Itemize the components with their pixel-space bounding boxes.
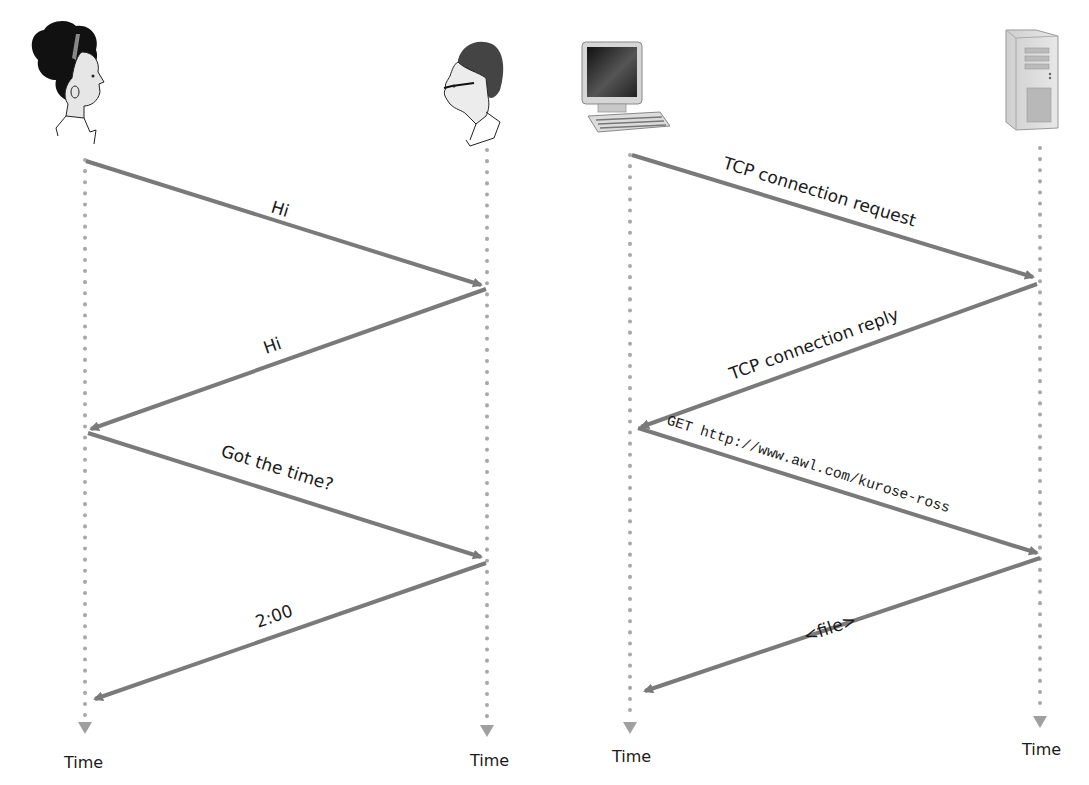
message-label: Got the time?	[219, 441, 336, 495]
message-tcp-reply: TCP connection reply	[641, 284, 1037, 427]
message-http-get: GET http://www.awl.com/kurose-ross	[638, 413, 1037, 553]
message-hi-b-to-a: Hi	[91, 289, 486, 429]
message-file: <file>	[645, 558, 1040, 691]
time-arrow-icon	[78, 722, 92, 734]
person-man-icon	[444, 42, 503, 146]
message-tcp-request: TCP connection request	[632, 152, 1033, 277]
server-tower-icon	[1006, 30, 1058, 130]
person-woman-icon	[32, 21, 104, 144]
time-label: Time	[63, 753, 103, 772]
message-label: Hi	[261, 333, 284, 358]
time-label: Time	[469, 751, 509, 770]
message-hi-a-to-b: Hi	[86, 161, 481, 285]
time-arrow-icon	[1033, 716, 1047, 728]
message-label: GET http://www.awl.com/kurose-ross	[665, 413, 952, 517]
lifeline-server	[1033, 148, 1047, 728]
message-label: 2:00	[253, 600, 296, 631]
message-2-00: 2:00	[95, 563, 486, 699]
message-label: <file>	[801, 609, 859, 645]
lifeline-person-a	[78, 160, 92, 734]
time-arrow-icon	[623, 722, 637, 734]
time-arrow-icon	[480, 725, 494, 737]
message-got-the-time: Got the time?	[88, 433, 481, 557]
protocol-diagram: Hi Hi Got the time? 2:00 TCP connection …	[0, 0, 1089, 785]
time-label: Time	[1021, 740, 1061, 759]
lifeline-person-b	[480, 150, 494, 737]
desktop-computer-icon	[582, 42, 670, 132]
time-label: Time	[611, 747, 651, 766]
lifeline-client	[623, 155, 637, 734]
